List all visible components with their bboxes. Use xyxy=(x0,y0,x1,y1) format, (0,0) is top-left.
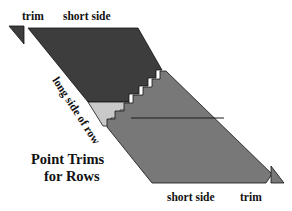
figure-title-line2: for Rows xyxy=(44,168,100,184)
figure-title-line1: Point Trims xyxy=(31,151,105,167)
label-short-side-top: short side xyxy=(63,10,111,22)
trim-triangle-top-left xyxy=(9,26,24,44)
trim-triangle-bottom-right xyxy=(271,166,284,183)
label-trim-top: trim xyxy=(22,10,44,22)
label-short-side-bottom: short side xyxy=(167,191,215,203)
upper-row-band xyxy=(28,28,162,102)
point-trims-diagram: trim short side long side of row long si… xyxy=(0,0,292,211)
diagram-canvas: trim short side long side of row long si… xyxy=(0,0,292,211)
label-trim-bottom: trim xyxy=(240,191,262,203)
